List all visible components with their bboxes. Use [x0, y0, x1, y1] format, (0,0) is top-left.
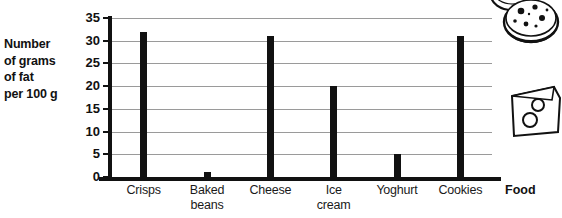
bar[interactable] — [330, 86, 337, 177]
gridline — [112, 63, 492, 64]
y-axis-tick-label: 30 — [74, 34, 100, 47]
y-axis-tick-label: 0 — [74, 170, 100, 183]
plot-area — [112, 18, 492, 177]
bar[interactable] — [394, 154, 401, 177]
x-axis-tick-label-line: Cheese — [239, 183, 302, 198]
gridline — [112, 154, 492, 155]
y-axis-tick-label: 10 — [74, 125, 100, 138]
x-axis-tick-label-line: Crisps — [112, 183, 175, 198]
x-axis-line — [99, 177, 501, 181]
gridline — [112, 86, 492, 87]
bar[interactable] — [457, 36, 464, 177]
cookie-illustration — [502, 0, 560, 48]
y-axis-tick — [103, 85, 112, 87]
x-axis-tick-label: Yoghurt — [365, 183, 428, 198]
y-axis-tick-label: 35 — [74, 11, 100, 24]
gridline — [112, 18, 492, 19]
x-axis-tick-label-line: Cookies — [429, 183, 492, 198]
y-axis-tick — [103, 176, 112, 178]
x-axis-tick-label: Bakedbeans — [175, 183, 238, 213]
y-axis-tick-label: 20 — [74, 79, 100, 92]
x-axis-tick-label-line: Baked — [175, 183, 238, 198]
x-axis-tick-label-line: cream — [302, 198, 365, 213]
gridline — [112, 132, 492, 133]
y-axis-tick — [103, 108, 112, 110]
y-axis-tick — [103, 131, 112, 133]
cheese-illustration — [508, 84, 562, 148]
y-axis-tick — [103, 17, 112, 19]
y-axis-tick-label: 5 — [74, 147, 100, 160]
y-axis-tick-labels: 05101520253035 — [72, 0, 100, 218]
x-axis-tick-label: Crisps — [112, 183, 175, 198]
bar[interactable] — [267, 36, 274, 177]
gridline — [112, 109, 492, 110]
x-axis-title: Food — [505, 183, 536, 197]
y-axis-tick — [103, 153, 112, 155]
gridline — [112, 41, 492, 42]
y-axis-tick — [103, 40, 112, 42]
x-axis-tick-label-line: Ice — [302, 183, 365, 198]
y-axis-tick — [103, 62, 112, 64]
x-axis-tick-label-line: beans — [175, 198, 238, 213]
x-axis-tick-label-line: Yoghurt — [365, 183, 428, 198]
y-axis-tick-label: 15 — [74, 102, 100, 115]
x-axis-tick-label: Icecream — [302, 183, 365, 213]
x-axis-tick-label: Cookies — [429, 183, 492, 198]
x-axis-tick-label: Cheese — [239, 183, 302, 198]
bar[interactable] — [140, 32, 147, 177]
bar[interactable] — [204, 172, 211, 177]
y-axis-tick-label: 25 — [74, 56, 100, 69]
